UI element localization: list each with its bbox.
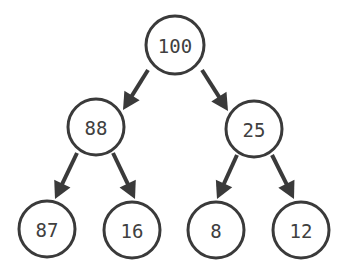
- edge-arrow-25-to-12: [272, 155, 294, 199]
- edge-line: [202, 70, 221, 99]
- node-label: 8: [210, 220, 221, 242]
- node-label: 88: [85, 117, 108, 139]
- edge-line: [223, 155, 237, 186]
- tree-node-25: 25: [226, 101, 282, 157]
- edge-arrow-88-to-16: [113, 153, 136, 199]
- edge-arrow-100-to-88: [123, 70, 148, 110]
- edge-line: [61, 153, 77, 186]
- edge-arrow-25-to-8: [216, 155, 237, 199]
- edge-line: [130, 70, 148, 98]
- tree-node-100: 100: [146, 16, 204, 74]
- tree-node-88: 88: [68, 99, 124, 155]
- tree-diagram: 10088258716812: [0, 0, 348, 277]
- node-label: 12: [290, 220, 313, 242]
- tree-svg: 10088258716812: [0, 0, 348, 277]
- node-label: 25: [243, 119, 266, 141]
- node-label: 87: [36, 219, 59, 241]
- node-label: 16: [121, 220, 144, 242]
- tree-node-12: 12: [273, 202, 329, 258]
- edge-arrow-100-to-25: [202, 70, 228, 111]
- nodes-layer: 10088258716812: [19, 16, 329, 258]
- edge-line: [272, 155, 288, 186]
- tree-node-87: 87: [19, 201, 75, 257]
- tree-node-16: 16: [104, 202, 160, 258]
- edge-line: [113, 153, 129, 186]
- node-label: 100: [158, 35, 192, 57]
- tree-node-8: 8: [188, 202, 244, 258]
- edge-arrow-88-to-87: [54, 153, 77, 199]
